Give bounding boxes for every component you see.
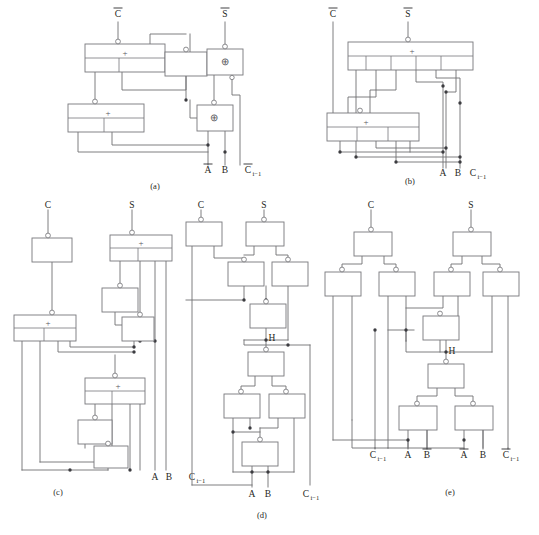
nand-e9 — [399, 401, 437, 430]
panel-e-blabel-0-sub: i−1 — [378, 455, 387, 462]
panel-d-node-h: H — [269, 333, 276, 343]
panel-c: + + + — [14, 200, 205, 497]
panel-e-node-h: H — [449, 346, 456, 356]
panel-e-blabel-3-text: A — [461, 450, 468, 460]
panel-d-blabel-1-text: B — [265, 489, 271, 499]
nand-e8 — [428, 359, 464, 388]
or-gate-c1: + — [110, 230, 172, 261]
or-gate-wide-1: + — [348, 37, 473, 70]
panel-a-blabel-0-text: A — [205, 165, 212, 175]
svg-text:+: + — [122, 48, 127, 58]
or-gate-2: + — [68, 99, 144, 132]
nand-d9 — [242, 437, 278, 466]
panel-c-blabel-0-text: A — [152, 472, 159, 482]
panel-b: + + C S A B C — [327, 8, 486, 186]
label-a-bar-a: A — [204, 164, 213, 175]
panel-d-blabel-2-sub: i−1 — [311, 494, 320, 501]
panel-b-blabel-1-text: B — [455, 168, 461, 178]
nand-e5 — [434, 267, 470, 296]
panel-b-blabel-2-text: C — [470, 168, 476, 178]
label-s-bar-a: S — [221, 8, 230, 19]
panel-e-top-labels: C S — [368, 200, 474, 210]
svg-text:+: + — [45, 318, 50, 328]
circuit-schematic-figure: + ⊕ + ⊕ — [0, 0, 539, 535]
panel-a-label-0-text: C — [115, 9, 121, 19]
label-cim1-c: C i−1 — [189, 472, 206, 484]
label-cim1-bar-a: C i−1 — [244, 164, 262, 177]
panel-d-label-1-text: S — [261, 200, 266, 210]
buffer-c1 — [32, 233, 72, 262]
nand-d3 — [228, 257, 264, 286]
panel-a-gates: + ⊕ + ⊕ — [68, 39, 243, 132]
panel-e-gates — [325, 227, 519, 430]
panel-a-caption: (a) — [150, 181, 160, 191]
label-cim1-bar-e: C i−1 — [502, 449, 520, 462]
panel-d-gates — [186, 217, 308, 466]
buffer-1 — [165, 47, 207, 76]
panel-e-blabel-5-sub: i−1 — [511, 455, 520, 462]
nand-e3 — [325, 267, 361, 296]
or-gate-wide-2: + — [327, 108, 419, 141]
label-cim1-b: C i−1 — [470, 168, 487, 180]
xor-gate-2: ⊕ — [197, 100, 233, 131]
panel-b-bottom-labels: A B C i−1 — [440, 168, 487, 180]
nand-e7 — [423, 311, 459, 340]
or-gate-c3: + — [85, 373, 145, 404]
nand-e1 — [354, 227, 392, 256]
panel-e-blabel-0-text: C — [370, 450, 376, 460]
or-gate-c2: + — [14, 310, 76, 341]
panel-b-top-labels: C S — [329, 8, 413, 19]
panel-e-blabel-1-text: A — [405, 450, 412, 460]
figure-root: + ⊕ + ⊕ — [0, 0, 539, 535]
panel-a: + ⊕ + ⊕ — [68, 8, 261, 191]
panel-e-blabel-4-text: B — [480, 450, 486, 460]
nand-e10 — [455, 401, 493, 430]
panel-a-blabel-2-text: C — [245, 165, 251, 175]
panel-b-blabel-2-sub: i−1 — [478, 173, 487, 180]
panel-d-blabel-2-text: C — [303, 489, 309, 499]
panel-c-blabel-2-sub: i−1 — [197, 477, 206, 484]
label-c-bar-b: C — [329, 8, 338, 19]
panel-d-label-0-text: C — [198, 200, 204, 210]
panel-b-label-0-text: C — [330, 9, 336, 19]
nand-d1 — [186, 217, 222, 246]
panel-c-gates: + + + — [14, 230, 172, 468]
svg-text:⊕: ⊕ — [210, 112, 218, 123]
label-b-bar-e: B — [423, 449, 432, 460]
svg-text:+: + — [363, 117, 368, 127]
panel-e-label-1-text: S — [468, 200, 473, 210]
label-cim1-e: C i−1 — [370, 450, 387, 462]
panel-d-bottom-labels: A B C i−1 — [249, 489, 320, 501]
panel-b-blabel-0-text: A — [440, 168, 447, 178]
svg-text:+: + — [409, 46, 414, 56]
nand-d6 — [248, 347, 284, 376]
panel-a-blabel-1-text: B — [222, 165, 228, 175]
panel-d-blabel-0-text: A — [249, 489, 256, 499]
panel-b-gates: + + — [327, 37, 473, 141]
nand-e6 — [483, 267, 519, 296]
nand-d7 — [224, 389, 260, 418]
nand-e4 — [379, 267, 415, 296]
svg-text:⊕: ⊕ — [221, 56, 229, 67]
panel-a-top-labels: C S — [114, 8, 230, 19]
panel-b-caption: (b) — [405, 176, 415, 186]
panel-d-top-labels: C S — [198, 200, 267, 210]
svg-text:+: + — [138, 238, 143, 248]
nand-e2 — [453, 227, 491, 256]
xor-gate-1: ⊕ — [207, 44, 243, 80]
buffer-c3 — [122, 312, 154, 341]
panel-d-caption: (d) — [257, 510, 267, 520]
panel-e-blabel-2-text: B — [424, 450, 430, 460]
svg-text:+: + — [105, 108, 110, 118]
panel-b-label-1-text: S — [405, 9, 410, 19]
panel-a-bottom-labels: A B C i−1 — [204, 164, 262, 177]
nand-d4 — [272, 257, 308, 286]
buffer-c5 — [94, 441, 128, 468]
buffer-c2 — [102, 283, 138, 312]
panel-c-caption: (c) — [53, 487, 63, 497]
panel-c-blabel-1-text: B — [166, 472, 172, 482]
label-s-bar-b: S — [404, 8, 413, 19]
panel-e-bottom-labels: C i−1 A B A B C i−1 — [370, 449, 520, 462]
panel-e-label-0-text: C — [368, 200, 374, 210]
panel-c-label-0-text: C — [45, 200, 51, 210]
